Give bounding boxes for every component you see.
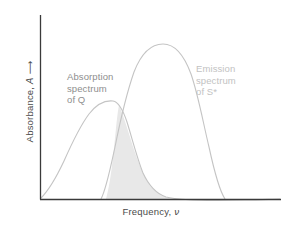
y-axis-label-text: Absorbance, [24, 84, 35, 142]
absorption-annotation: Absorption spectrum of Q [67, 71, 113, 106]
y-axis-label: Absorbance, A ⟶ [24, 32, 35, 172]
spectral-overlap-shading [106, 105, 174, 199]
x-axis-label-text: Frequency, [122, 206, 174, 217]
y-axis-label-symbol: A [24, 77, 35, 84]
x-axis-label-symbol: ν [174, 206, 180, 217]
spectral-overlap-figure: Absorption spectrum of Q Emission spectr… [0, 0, 302, 226]
x-axis-label: Frequency, ν [0, 206, 302, 217]
emission-annotation: Emission spectrum of S* [196, 63, 236, 98]
absorption-curve [41, 101, 280, 201]
plot-area [0, 0, 302, 226]
y-axis-arrow-icon: ⟶ [24, 61, 35, 78]
